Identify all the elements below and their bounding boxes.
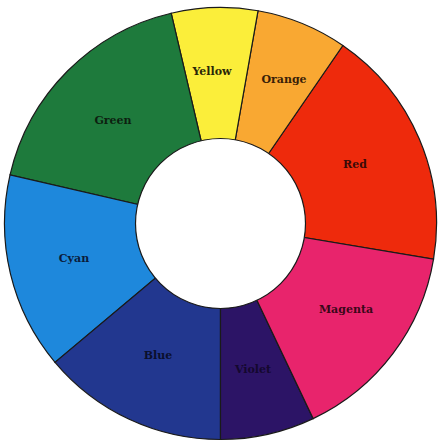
label-cyan: Cyan (59, 252, 89, 265)
color-wheel: RedOrangeYellowGreenCyanBlueVioletMagent… (0, 0, 440, 446)
label-magenta: Magenta (319, 303, 373, 316)
label-green: Green (94, 114, 131, 127)
center-hole (136, 139, 306, 309)
label-orange: Orange (261, 73, 306, 86)
label-violet: Violet (234, 363, 272, 376)
label-red: Red (343, 158, 367, 171)
label-yellow: Yellow (191, 65, 232, 78)
label-blue: Blue (144, 349, 172, 362)
